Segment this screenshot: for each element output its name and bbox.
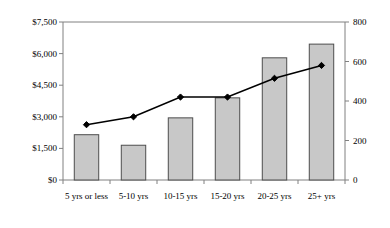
left-axis-tick-label: $3,000 <box>6 112 57 122</box>
chart-container: $0$1,500$3,000$4,500$6,000$7,50002004006… <box>0 0 390 228</box>
bar-1 <box>121 145 145 180</box>
x-axis-category-label: 25+ yrs <box>293 191 350 201</box>
line-marker-1 <box>130 114 136 120</box>
left-axis-tick-label: $6,000 <box>6 49 57 59</box>
right-axis-tick-label: 800 <box>353 17 390 27</box>
left-axis-tick-label: $0 <box>6 175 57 185</box>
right-axis-tick-label: 200 <box>353 136 390 146</box>
right-axis-tick-label: 600 <box>353 57 390 67</box>
left-axis-tick-label: $1,500 <box>6 143 57 153</box>
line-marker-2 <box>177 94 183 100</box>
left-axis-tick-label: $4,500 <box>6 80 57 90</box>
right-axis-tick-label: 400 <box>353 96 390 106</box>
right-axis-tick-label: 0 <box>353 175 390 185</box>
bar-2 <box>168 118 192 180</box>
line-marker-0 <box>83 122 89 128</box>
left-axis-tick-label: $7,500 <box>6 17 57 27</box>
bar-3 <box>215 98 239 180</box>
bar-0 <box>74 135 98 180</box>
